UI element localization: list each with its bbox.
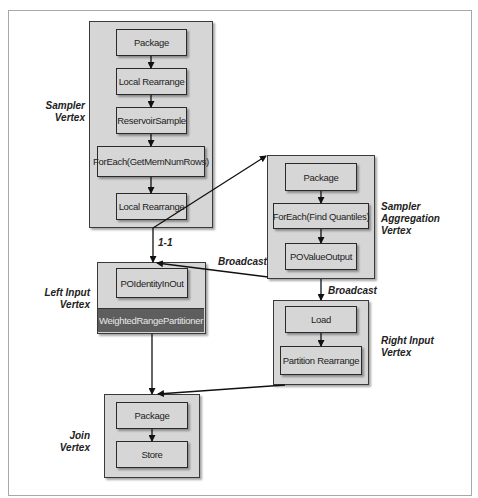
weighted-range-partitioner: WeightedRangePartitioner (98, 308, 204, 332)
sampler-op-local-rearrange: Local Rearrange (116, 68, 187, 95)
sampler-op-local-rearrange-2: Local Rearrange (116, 193, 187, 220)
diagram-frame (8, 10, 472, 496)
aggregation-op-foreach: ForEach(Find Quantiles) (273, 203, 369, 229)
label-line: Sampler (30, 100, 85, 112)
aggregation-op-package: Package (285, 163, 357, 191)
edge-label-broadcast-left: Broadcast (218, 256, 267, 268)
label-line: Join (40, 430, 90, 442)
label-line: Left Input (30, 287, 90, 299)
sampler-op-package: Package (116, 29, 187, 56)
edge-label-1-1: 1-1 (158, 237, 172, 249)
label-line: Vertex (381, 347, 434, 359)
right-op-load: Load (285, 306, 357, 333)
sampler-aggregation-vertex-label: Sampler Aggregation Vertex (381, 201, 440, 237)
join-vertex-label: Join Vertex (40, 430, 90, 454)
right-input-vertex-label: Right Input Vertex (381, 335, 434, 359)
label-line: Vertex (30, 299, 90, 311)
join-op-store: Store (116, 441, 188, 468)
join-op-package: Package (116, 402, 188, 429)
label-line: Vertex (40, 442, 90, 454)
label-line: Aggregation (381, 213, 440, 225)
left-input-vertex-label: Left Input Vertex (30, 287, 90, 311)
label-line: Vertex (30, 112, 85, 124)
label-line: Vertex (381, 225, 440, 237)
label-line: Sampler (381, 201, 440, 213)
sampler-vertex-label: Sampler Vertex (30, 100, 85, 124)
right-op-partition-rearrange: Partition Rearrange (280, 346, 362, 375)
label-line: Right Input (381, 335, 434, 347)
edge-label-broadcast-right: Broadcast (328, 285, 377, 297)
left-op-poidentityinout: POIdentityInOut (116, 268, 188, 298)
sampler-op-foreach: ForEach(GetMemNumRows) (97, 146, 205, 177)
sampler-op-reservoir-sample: ReservoirSample (116, 107, 187, 134)
aggregation-op-povalueoutput: POValueOutput (285, 243, 357, 270)
